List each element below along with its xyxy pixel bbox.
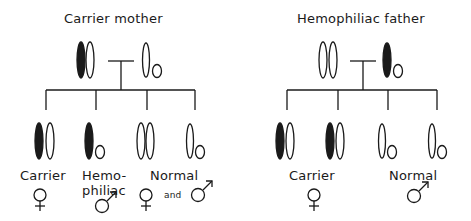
left-normal-male-icon xyxy=(192,181,213,202)
left-father-chromosomes xyxy=(143,43,162,78)
right-mother-chromosomes xyxy=(319,42,337,78)
left-child-1-chromosomes xyxy=(35,123,54,159)
right-carrier-female-icon xyxy=(308,189,320,211)
left-normal-female-icon xyxy=(140,189,152,211)
right-sibship-line xyxy=(287,90,437,110)
left-hemophiliac-label-line2: philiac xyxy=(82,183,126,198)
left-carrier-label: Carrier xyxy=(20,168,66,183)
right-father-chromosomes xyxy=(383,43,403,78)
right-normal-label: Normal xyxy=(389,168,437,183)
left-normal-label: Normal xyxy=(150,168,198,183)
left-panel-title: Carrier mother xyxy=(64,11,163,26)
left-mating-line xyxy=(108,61,134,90)
left-carrier-female-icon xyxy=(34,189,46,211)
right-panel-title: Hemophiliac father xyxy=(297,11,425,26)
left-child-3-chromosomes xyxy=(137,123,154,159)
right-carrier-label: Carrier xyxy=(289,168,335,183)
left-mother-chromosomes xyxy=(77,42,94,78)
inheritance-diagram xyxy=(0,0,471,221)
left-child-2-chromosomes xyxy=(85,123,105,159)
left-hemophiliac-label-line1: Hemo- xyxy=(82,168,126,183)
left-child-4-chromosomes xyxy=(187,124,205,159)
right-child-3-chromosomes xyxy=(379,124,397,159)
left-sibship-line xyxy=(46,90,195,110)
right-normal-male-icon xyxy=(408,182,429,203)
right-child-4-chromosomes xyxy=(429,124,447,159)
left-and-label: and xyxy=(164,190,182,200)
right-mating-line xyxy=(350,61,376,90)
right-child-2-chromosomes xyxy=(326,123,344,159)
right-child-1-chromosomes xyxy=(276,123,294,159)
